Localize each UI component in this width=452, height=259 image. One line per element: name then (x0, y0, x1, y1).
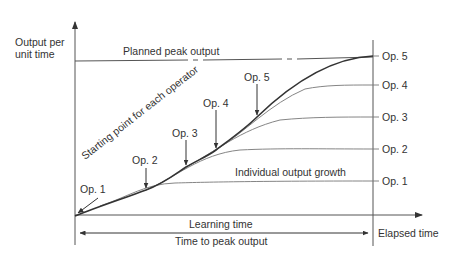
learning-curve-diagram: Op. 1 Op. 2 Op. 3 Op. 4 Op. 5 Op. 5 Op. … (0, 0, 452, 259)
op2-start-label: Op. 2 (132, 154, 158, 166)
op3-growth-curve (186, 117, 373, 167)
op1-level-label: Op. 1 (382, 175, 408, 187)
op5-start-label: Op. 5 (244, 71, 270, 83)
op3-level-label: Op. 3 (382, 111, 408, 123)
y-axis-label-line2: unit time (15, 48, 55, 60)
starting-point-label: Starting point for each operator (79, 63, 201, 162)
op1-start-label: Op. 1 (80, 183, 106, 195)
planned-peak-line (75, 57, 373, 61)
learning-time-label: Learning time (189, 218, 253, 230)
op3-start-label: Op. 3 (172, 127, 198, 139)
planned-peak-label: Planned peak output (123, 45, 219, 57)
op1-growth-curve (100, 181, 373, 206)
x-axis-label: Elapsed time (378, 227, 439, 239)
op4-start-label: Op. 4 (203, 97, 229, 109)
time-to-peak-label: Time to peak output (175, 235, 267, 247)
op5-level-label: Op. 5 (382, 50, 408, 62)
overall-output-curve (75, 56, 373, 216)
op4-level-label: Op. 4 (382, 79, 408, 91)
y-axis-label-line1: Output per (15, 36, 65, 48)
op2-level-label: Op. 2 (382, 143, 408, 155)
individual-growth-label: Individual output growth (235, 166, 346, 178)
